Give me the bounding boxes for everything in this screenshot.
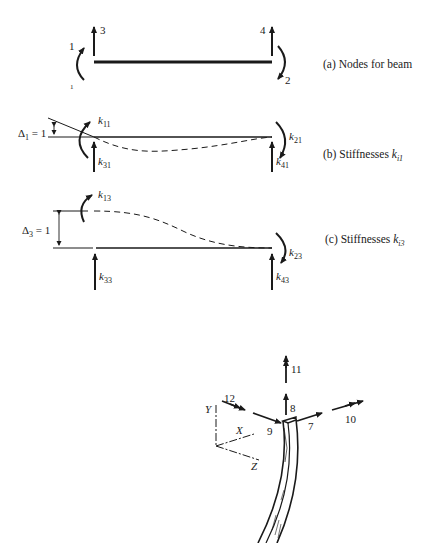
dof-label-9: 9 — [267, 425, 273, 437]
moment-k11-icon — [79, 122, 90, 158]
label-k13: k13 — [98, 188, 111, 203]
label-k43: k43 — [276, 270, 289, 285]
deflected-shape — [94, 137, 272, 151]
caption-c: (c) Stiffnesses ki3 — [325, 233, 404, 248]
caption-a: (a) Nodes for beam — [323, 58, 412, 71]
moment-k21-icon — [276, 122, 285, 158]
node-label-4: 4 — [260, 24, 266, 36]
panel-c-stiffness-ki3: Δ3 = 1 k13 k23 k33 k43 (c) Stiffnesses k… — [22, 188, 404, 290]
panel-b-stiffness-ki1: Δ1 = 1 k11 k21 k31 k41 (b) Stiffnesses k… — [18, 114, 403, 172]
moment-k13-icon — [81, 195, 92, 222]
dof-label-7: 7 — [308, 420, 314, 432]
panel-a-nodes: 3 4 1 2 1 (a) Nodes for beam — [69, 24, 412, 91]
dof-arrow-9-icon — [253, 413, 281, 423]
node-label-1: 1 — [69, 40, 75, 52]
moment-k23-icon — [276, 233, 285, 263]
dof-label-10: 10 — [345, 413, 357, 425]
label-k11: k11 — [98, 114, 111, 129]
axis-label-z: Z — [251, 460, 258, 472]
axis-x — [216, 434, 254, 446]
label-k33: k33 — [99, 270, 112, 285]
label-k41: k41 — [276, 155, 289, 170]
dof-label-12: 12 — [224, 392, 235, 404]
rotation-arrow-1-icon — [77, 48, 84, 80]
node-label-3: 3 — [100, 24, 106, 36]
panel-3d-beam-element: Y X Z 11 8 12 9 7 10 — [205, 356, 363, 543]
member-outer-left — [258, 421, 284, 543]
delta3-label: Δ3 = 1 — [22, 224, 50, 239]
rotated-tangent — [48, 118, 94, 137]
dof-arrow-12-second-head — [230, 404, 240, 408]
deflected-shape-c — [94, 211, 272, 248]
axis-label-y: Y — [205, 403, 213, 415]
label-k23: k23 — [289, 246, 302, 261]
dof-label-11: 11 — [291, 363, 302, 375]
axis-z — [216, 446, 259, 460]
dof-label-8: 8 — [290, 402, 296, 414]
label-k31: k31 — [98, 155, 111, 170]
rotation-arrow-2-icon — [278, 46, 285, 79]
axis-label-x: X — [235, 424, 244, 436]
delta1-label: Δ1 = 1 — [18, 127, 46, 142]
beam-stiffness-diagram: 3 4 1 2 1 (a) Nodes for beam Δ1 = 1 k11 … — [0, 0, 425, 543]
node-label-2: 2 — [285, 74, 291, 86]
stray-mark: 1 — [70, 83, 74, 91]
member-top — [283, 417, 296, 423]
caption-b: (b) Stiffnesses ki1 — [323, 148, 403, 163]
label-k21: k21 — [289, 130, 302, 145]
